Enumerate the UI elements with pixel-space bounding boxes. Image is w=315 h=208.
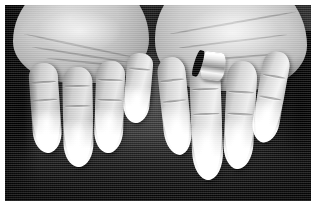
right-ring-joint-proximal	[229, 91, 254, 94]
right-palm-crease-2	[179, 34, 288, 49]
left-ring-finger	[93, 61, 125, 154]
left-index-joint-distal	[33, 98, 57, 102]
photo-subject: Both hands, palms facing upward, resting…	[0, 0, 1, 1]
left-middle-joint-distal	[65, 105, 90, 107]
left-index-joint-proximal	[31, 80, 55, 84]
left-hand-label: Left hand	[0, 0, 1, 1]
right-ring-joint-distal	[227, 112, 252, 115]
right-hand-label: Right hand	[0, 0, 1, 1]
right-little-joint-proximal	[263, 73, 286, 79]
left-ring-joint-proximal	[98, 79, 122, 82]
left-ring-joint-distal	[98, 98, 122, 101]
photo-frame: Pallor of the fingertips of both hands R…	[0, 0, 315, 208]
left-middle-joint-proximal	[65, 85, 90, 87]
ring-label: Ring on right ring finger	[0, 0, 1, 1]
left-middle-finger	[62, 67, 94, 168]
right-middle-joint-distal	[193, 113, 219, 116]
photo-caption: Pallor of the fingertips of both hands	[0, 0, 1, 1]
right-palm-crease-1	[170, 11, 296, 35]
right-middle-finger	[189, 64, 224, 180]
clinical-photograph	[5, 5, 311, 201]
right-middle-joint-proximal	[192, 88, 218, 91]
photo-finding: Raynaud phenomenon - blanching (white ph…	[0, 0, 1, 1]
left-middle-fingertip-pallor	[63, 119, 94, 168]
left-little-joint-proximal	[129, 68, 151, 72]
right-index-joint-proximal	[160, 77, 184, 81]
